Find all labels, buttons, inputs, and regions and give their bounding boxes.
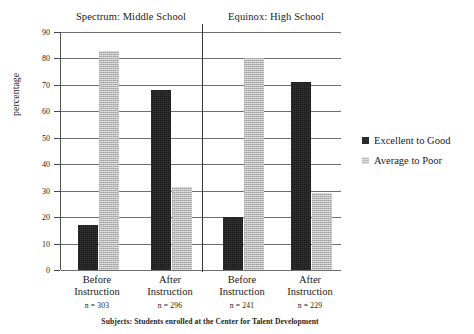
y-axis-label: percentage xyxy=(10,73,21,116)
chart-canvas: Spectrum: Middle School Equinox: High Sc… xyxy=(0,0,474,334)
x-group-line2: Instruction xyxy=(131,286,209,298)
panel-title-right: Equinox: High School xyxy=(206,11,346,22)
y-tick-90 xyxy=(54,32,60,33)
y-tick-label-30: 30 xyxy=(42,186,50,195)
y-tick-30 xyxy=(54,191,60,192)
y-tick-label-90: 90 xyxy=(42,28,50,37)
y-tick-80 xyxy=(54,58,60,59)
x-group-line1: Before xyxy=(203,274,281,286)
y-tick-label-40: 40 xyxy=(42,160,50,169)
x-group-line2: Instruction xyxy=(203,286,281,298)
x-group-label: AfterInstructionn = 229 xyxy=(271,274,349,311)
x-group-line1: Before xyxy=(58,274,136,286)
legend-label: Average to Poor xyxy=(374,155,442,166)
y-tick-70 xyxy=(54,85,60,86)
bar xyxy=(151,90,171,270)
y-tick-label-20: 20 xyxy=(42,213,50,222)
legend-label: Excellent to Good xyxy=(374,135,450,146)
x-group-line2: Instruction xyxy=(271,286,349,298)
legend-swatch-icon xyxy=(362,157,369,164)
x-group-line2: Instruction xyxy=(58,286,136,298)
y-tick-40 xyxy=(54,164,60,165)
y-tick-label-0: 0 xyxy=(46,266,50,275)
y-tick-label-80: 80 xyxy=(42,54,50,63)
x-group-label: BeforeInstructionn = 241 xyxy=(203,274,281,311)
bar xyxy=(244,58,264,270)
legend-item: Average to Poor xyxy=(362,155,450,166)
y-tick-label-60: 60 xyxy=(42,107,50,116)
bar xyxy=(99,51,119,270)
bar xyxy=(312,193,332,270)
x-group-label: BeforeInstructionn = 303 xyxy=(58,274,136,311)
plot-area: 9080706050403020100 xyxy=(60,32,341,270)
bar xyxy=(172,187,192,270)
y-tick-20 xyxy=(54,217,60,218)
panel-title-left: Spectrum: Middle School xyxy=(58,11,204,22)
x-group-line1: After xyxy=(271,274,349,286)
legend-swatch-icon xyxy=(362,137,369,144)
y-tick-label-70: 70 xyxy=(42,80,50,89)
y-tick-label-50: 50 xyxy=(42,133,50,142)
bar xyxy=(223,217,243,270)
x-group-sample-size: n = 229 xyxy=(271,300,349,312)
bar xyxy=(291,82,311,270)
x-group-sample-size: n = 241 xyxy=(203,300,281,312)
x-group-sample-size: n = 303 xyxy=(58,300,136,312)
legend-item: Excellent to Good xyxy=(362,135,450,146)
chart-footnote: Subjects: Students enrolled at the Cente… xyxy=(0,317,420,326)
y-tick-label-10: 10 xyxy=(42,239,50,248)
chart-legend: Excellent to GoodAverage to Poor xyxy=(362,135,450,175)
x-group-label: AfterInstructionn = 296 xyxy=(131,274,209,311)
gridline-0 xyxy=(61,270,341,271)
x-group-sample-size: n = 296 xyxy=(131,300,209,312)
gridline-90 xyxy=(61,32,341,33)
y-tick-0 xyxy=(54,270,60,271)
x-group-line1: After xyxy=(131,274,209,286)
y-tick-60 xyxy=(54,111,60,112)
bar xyxy=(78,225,98,270)
y-tick-50 xyxy=(54,138,60,139)
panel-divider xyxy=(202,24,203,272)
y-tick-10 xyxy=(54,244,60,245)
